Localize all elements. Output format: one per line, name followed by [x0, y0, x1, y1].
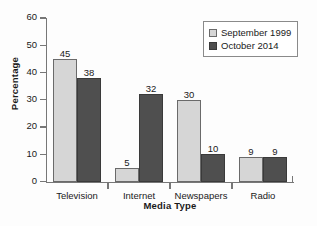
x-axis-title: Media Type: [46, 200, 294, 211]
bar: 9: [239, 157, 263, 182]
x-axis-tick: [231, 183, 232, 189]
y-axis-tick-label: 10: [26, 148, 37, 159]
bar: 32: [139, 94, 163, 181]
bar: 38: [77, 78, 101, 182]
y-axis-tick-label: 40: [26, 66, 37, 77]
y-axis-tick-label: 60: [26, 11, 37, 22]
y-axis-tick: 40: [40, 72, 46, 73]
y-axis-tick-label: 50: [26, 39, 37, 50]
bar: 30: [177, 100, 201, 182]
y-axis-tick: 0: [40, 181, 46, 182]
y-axis-line: [46, 18, 47, 183]
bar: 10: [201, 154, 225, 181]
bar-value-label: 45: [60, 48, 71, 59]
bar-value-label: 38: [84, 67, 95, 78]
legend-item-label: October 2014: [221, 40, 279, 51]
bar-value-label: 10: [208, 143, 219, 154]
y-axis-tick: 60: [40, 17, 46, 18]
bar-chart-figure: Percentage 0102030405060 4538532301099 T…: [0, 0, 317, 226]
y-axis-tick-label: 0: [32, 175, 37, 186]
x-axis-end-tick: [292, 176, 293, 183]
y-axis-tick: 10: [40, 154, 46, 155]
bar-value-label: 30: [184, 89, 195, 100]
legend-swatch-light: [209, 29, 217, 37]
x-axis-tick: [169, 183, 170, 189]
bar: 5: [115, 168, 139, 182]
legend-item: September 1999: [209, 26, 291, 39]
y-axis-tick-label: 20: [26, 120, 37, 131]
bar-value-label: 5: [124, 157, 129, 168]
legend-item-label: September 1999: [221, 27, 291, 38]
legend: September 1999October 2014: [203, 21, 298, 57]
y-axis-tick: 50: [40, 45, 46, 46]
bar: 9: [263, 157, 287, 182]
y-axis-tick-label: 30: [26, 93, 37, 104]
y-axis-tick: 30: [40, 99, 46, 100]
y-axis-title: Percentage: [9, 44, 20, 124]
legend-swatch-dark: [209, 42, 217, 50]
x-axis-tick: [107, 183, 108, 189]
legend-item: October 2014: [209, 39, 291, 52]
bar-value-label: 9: [272, 146, 277, 157]
bar-value-label: 9: [248, 146, 253, 157]
bar: 45: [53, 59, 77, 182]
y-axis-tick: 20: [40, 126, 46, 127]
bar-value-label: 32: [146, 83, 157, 94]
